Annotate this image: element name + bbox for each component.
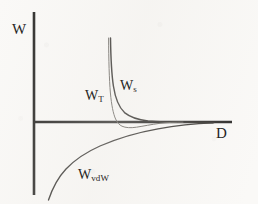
curve-label-wt-subscript: T [98, 94, 104, 104]
figure-container: W D WT Ws WvdW [0, 0, 258, 204]
curve-label-ws: Ws [120, 77, 137, 94]
curve-label-wvdw: WvdW [78, 166, 109, 183]
curve-label-wt: WT [85, 87, 104, 104]
curve-label-ws-subscript: s [133, 84, 137, 94]
curve-label-wvdw-subscript: vdW [91, 173, 109, 183]
curve-wvdw-line [49, 123, 214, 200]
curve-label-ws-base: W [120, 78, 133, 93]
x-axis-label: D [216, 126, 227, 141]
curve-label-wvdw-base: W [78, 167, 91, 182]
curve-label-wt-base: W [85, 88, 98, 103]
y-axis-label: W [12, 22, 26, 37]
plot-canvas [0, 0, 258, 204]
